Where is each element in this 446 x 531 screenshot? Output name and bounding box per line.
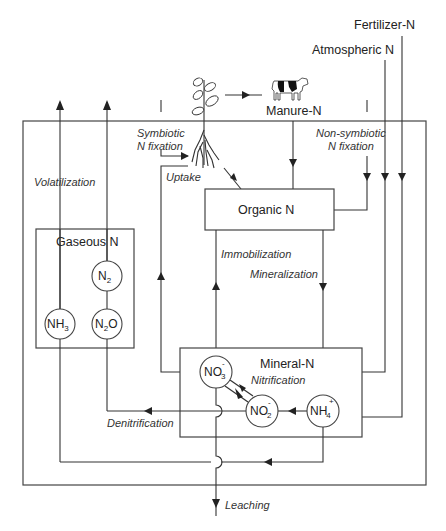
nh3-species: NH3 — [45, 309, 75, 339]
n2o-species: N2O — [92, 309, 122, 339]
plant-icon — [191, 76, 220, 168]
fertilizer-flow — [362, 36, 406, 417]
nh4-to-no2-arrow — [278, 407, 307, 415]
svg-text:-: - — [268, 398, 271, 407]
plant-to-cow-arrow — [225, 91, 262, 99]
volatilization-label: Volatilization — [34, 176, 95, 188]
residue-to-organic-flow — [224, 168, 241, 189]
gaseous-n-label: Gaseous N — [56, 235, 119, 249]
nonsymbiotic-fixation-flow — [334, 100, 371, 210]
mineral-n-label: Mineral-N — [260, 357, 314, 371]
no2-species: NO2 - — [246, 395, 278, 427]
leaching-label: Leaching — [225, 499, 271, 511]
immobilization-flow — [212, 230, 220, 348]
uptake-label: Uptake — [166, 171, 201, 183]
manure-flow — [289, 121, 297, 189]
nitrification-label: Nitrification — [251, 374, 305, 386]
fertilizer-label: Fertilizer-N — [354, 18, 415, 32]
immobilization-label: Immobilization — [221, 248, 291, 260]
nh4-to-nh3-flow — [60, 427, 323, 466]
cow-icon — [272, 78, 308, 100]
mineralization-flow — [319, 230, 327, 348]
n2-species: N2 — [92, 261, 122, 291]
symbiotic-label-1: Symbiotic — [137, 127, 185, 139]
nitrogen-cycle-diagram: Fertilizer-N Atmospheric N Manure-N Non-… — [0, 0, 446, 531]
uptake-flow — [157, 166, 188, 372]
mineralization-label: Mineralization — [250, 268, 318, 280]
denitrification-flow — [107, 407, 246, 415]
atmospheric-label: Atmospheric N — [312, 43, 394, 57]
leaching-flow — [212, 388, 222, 516]
organic-n-label: Organic N — [238, 203, 294, 217]
svg-text:-: - — [222, 359, 225, 368]
denitrification-label: Denitrification — [107, 417, 174, 429]
symbiotic-label-2: N fixation — [137, 140, 183, 152]
nonsymbiotic-label-1: Non-symbiotic — [316, 127, 386, 139]
organic-n-pool: Organic N — [205, 189, 334, 230]
svg-text:+: + — [329, 397, 334, 406]
no3-species: NO3 - — [200, 356, 232, 388]
manure-label: Manure-N — [266, 104, 322, 118]
atmospheric-flow — [362, 60, 389, 372]
nh4-species: NH4 + — [307, 395, 339, 427]
nitrification-arrows — [225, 380, 253, 402]
nonsymbiotic-label-2: N fixation — [328, 140, 374, 152]
